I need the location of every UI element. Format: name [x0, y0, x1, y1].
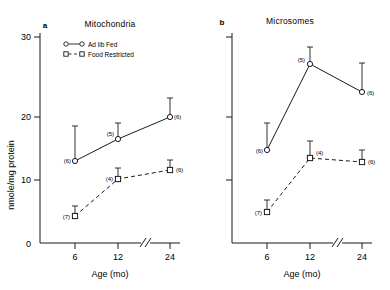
panel-b-xtick-label-6: 6 — [264, 252, 269, 262]
panel-b-ad-lib-point-12 — [307, 61, 312, 66]
panel-a-fr-point-6 — [72, 213, 77, 218]
panel-b-fr-n-12: (4) — [316, 150, 323, 156]
y-axis-title: nmole/mg protein — [6, 140, 16, 210]
panel-a-x-axis-title: Age (mo) — [91, 269, 128, 279]
legend-entry-food-restricted: Food Restricted — [64, 51, 134, 58]
panel-b-fr-n-24: (6) — [368, 159, 375, 165]
panel-a-letter: a — [43, 21, 48, 30]
panel-b-ad-lib-point-6 — [264, 147, 269, 152]
chart-svg: a Mitochondria 30 20 10 0 nmole/mg prote… — [0, 0, 390, 290]
panel-a-series-ad-lib-fed: (6) (5) (6) — [64, 98, 182, 164]
panel-a-title: Mitochondria — [84, 19, 135, 29]
legend-entry-ad-lib-fed: Ad lib Fed — [64, 41, 118, 48]
legend-square-marker-left — [64, 52, 68, 56]
panel-a-ad-lib-point-12 — [115, 136, 120, 141]
panel-b-xtick-label-12: 12 — [305, 252, 315, 262]
panel-a-ytick-label-0: 0 — [26, 239, 31, 249]
panel-b-fr-point-6 — [264, 209, 269, 214]
legend-label-food-restricted: Food Restricted — [88, 51, 134, 58]
panel-b-series-ad-lib-fed: (6) (5) (6) — [256, 47, 375, 154]
panel-b-title: Microsomes — [266, 16, 314, 26]
panel-b-ad-lib-n-12: (5) — [298, 57, 305, 63]
panel-b-fr-point-24 — [359, 159, 364, 164]
panel-a-ytick-label-10: 10 — [21, 175, 31, 185]
panel-a-ad-lib-point-24 — [167, 114, 172, 119]
panel-b-xtick-label-24: 24 — [357, 252, 367, 262]
figure-container: a Mitochondria 30 20 10 0 nmole/mg prote… — [0, 0, 390, 290]
panel-b-ad-lib-point-24 — [359, 89, 364, 94]
panel-b: b Microsomes 6 12 24 Age (mo) — [220, 16, 376, 279]
panel-b-letter: b — [220, 18, 225, 27]
panel-a-series-food-restricted: (7) (4) (6) — [63, 160, 184, 220]
panel-a-fr-point-12 — [115, 176, 120, 181]
panel-b-ad-lib-n-6: (6) — [256, 148, 263, 154]
panel-a-food-restricted-line — [75, 170, 170, 216]
legend-circle-marker-right — [80, 42, 84, 46]
panel-a-xtick-label-6: 6 — [72, 252, 77, 262]
panel-a-fr-n-6: (7) — [63, 214, 70, 220]
panel-a-ad-lib-n-6: (6) — [64, 158, 71, 164]
panel-a-xtick-label-24: 24 — [165, 252, 175, 262]
panel-a-fr-n-12: (4) — [106, 176, 113, 182]
panel-b-fr-n-6: (7) — [255, 210, 262, 216]
legend-label-ad-lib-fed: Ad lib Fed — [88, 41, 118, 48]
panel-a-ytick-label-30: 30 — [21, 32, 31, 42]
panel-a-ad-lib-n-24: (6) — [174, 114, 181, 120]
panel-b-ad-lib-line — [267, 64, 362, 150]
panel-a-ad-lib-n-12: (5) — [107, 131, 114, 137]
panel-a-fr-n-24: (6) — [176, 167, 183, 173]
panel-a: a Mitochondria 30 20 10 0 nmole/mg prote… — [6, 19, 183, 279]
panel-b-ad-lib-n-24: (6) — [367, 90, 374, 96]
panel-a-ad-lib-point-6 — [72, 158, 77, 163]
panel-a-ad-lib-line — [75, 117, 170, 161]
panel-b-x-axis-title: Age (mo) — [283, 269, 320, 279]
panel-b-food-restricted-line — [267, 158, 362, 212]
legend-circle-marker-left — [64, 42, 68, 46]
panel-a-ytick-label-20: 20 — [21, 112, 31, 122]
legend: Ad lib Fed Food Restricted — [64, 41, 134, 58]
panel-b-series-food-restricted: (7) (4) (6) — [255, 141, 376, 216]
legend-square-marker-right — [80, 52, 84, 56]
panel-a-fr-point-24 — [167, 167, 172, 172]
panel-a-xtick-label-12: 12 — [113, 252, 123, 262]
panel-b-fr-point-12 — [307, 155, 312, 160]
